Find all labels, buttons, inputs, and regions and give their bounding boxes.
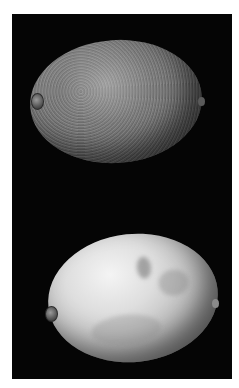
top-lemon-stem-end	[31, 93, 44, 110]
photo-frame	[12, 14, 232, 379]
bottom-lemon	[42, 225, 224, 370]
bottom-lemon-stem-end	[45, 306, 58, 322]
blemish	[90, 311, 163, 348]
blemish	[136, 256, 152, 279]
top-lemon-tip	[198, 97, 205, 106]
bottom-lemon-tip	[212, 299, 219, 308]
top-lemon	[26, 34, 206, 169]
blemish	[157, 268, 190, 297]
